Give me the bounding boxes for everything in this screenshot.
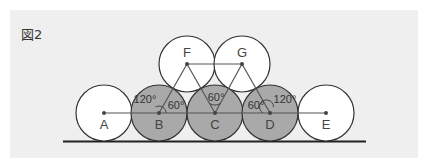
- angle-label-b-120: 120°: [134, 93, 157, 105]
- circles-diagram: A B C D E F G 120° 60° 60° 60° 120°: [0, 0, 431, 168]
- dot-b: [157, 111, 161, 115]
- dot-c: [213, 111, 217, 115]
- dot-d: [268, 111, 272, 115]
- label-a: A: [100, 117, 109, 132]
- label-g: G: [237, 45, 247, 60]
- label-d: D: [265, 117, 274, 132]
- angle-label-b-60: 60°: [168, 99, 185, 111]
- label-e: E: [322, 117, 331, 132]
- label-b: B: [155, 117, 164, 132]
- dot-a: [102, 111, 106, 115]
- dot-f: [185, 62, 189, 66]
- angle-label-d-120: 120°: [274, 93, 297, 105]
- dot-e: [324, 111, 328, 115]
- angle-label-d-60: 60°: [248, 99, 265, 111]
- dot-g: [240, 62, 244, 66]
- label-c: C: [210, 117, 219, 132]
- label-f: F: [183, 45, 191, 60]
- angle-label-c-60: 60°: [208, 91, 225, 103]
